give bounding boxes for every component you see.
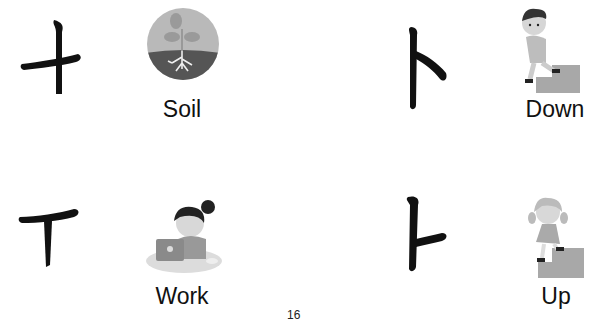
label-down: Down [519, 96, 591, 123]
girl-walking-up-stairs-icon [522, 192, 586, 278]
plant-in-soil-icon [146, 7, 220, 81]
woman-at-laptop-icon [144, 193, 224, 277]
character-work-glyph [18, 205, 82, 269]
page-number: 16 [287, 308, 300, 322]
label-work: Work [148, 283, 216, 310]
character-up-glyph [402, 193, 452, 273]
character-soil-glyph [18, 18, 82, 98]
label-soil: Soil [150, 96, 214, 123]
boy-walking-down-stairs-icon [518, 5, 584, 93]
label-up: Up [534, 283, 578, 310]
character-down-glyph [402, 25, 452, 111]
